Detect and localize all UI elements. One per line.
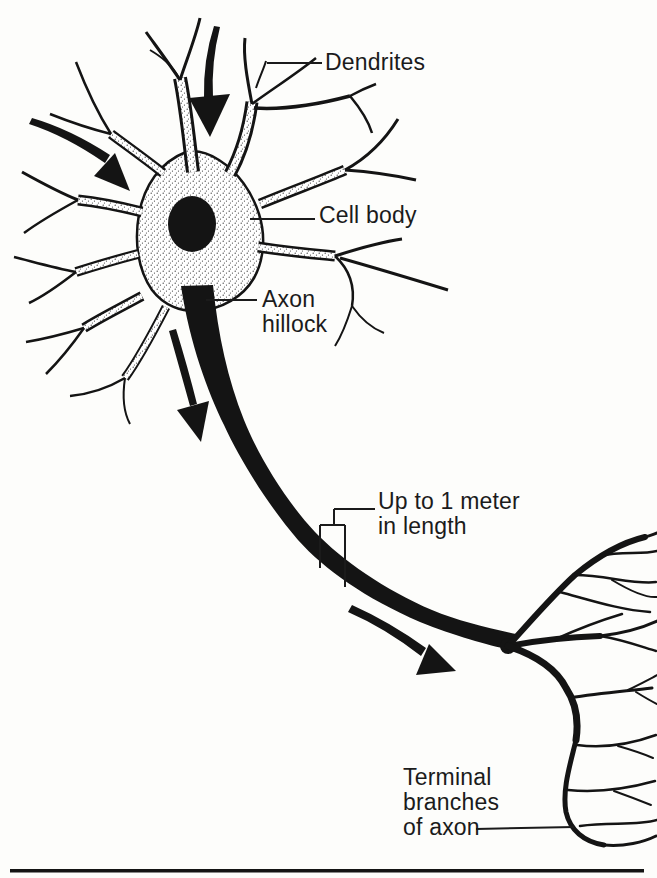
- arrow-left-into-cell-icon: [29, 118, 130, 191]
- terminal-branches-group: [500, 533, 657, 845]
- label-axon-length-line2: in length: [378, 514, 520, 539]
- dendrite: [260, 119, 416, 204]
- axon-path: [181, 285, 516, 650]
- label-dendrites: Dendrites: [325, 50, 425, 75]
- label-terminal-branches: Terminal branches of axon: [403, 765, 499, 840]
- label-cell-body-line: Cell body: [319, 203, 417, 228]
- nucleus: [168, 196, 216, 252]
- label-axon-hillock-line2: hillock: [262, 312, 327, 337]
- label-terminal-line2: branches: [403, 790, 499, 815]
- dendrite: [14, 254, 138, 303]
- neuron-illustration: [0, 0, 657, 878]
- label-terminal-line1: Terminal: [403, 765, 499, 790]
- dendrite: [26, 296, 142, 374]
- label-dendrites-line: Dendrites: [325, 50, 425, 75]
- arrow-down-into-cell-icon: [189, 26, 230, 137]
- leader-lines-group: [206, 63, 574, 829]
- bottom-rule: [10, 869, 644, 873]
- label-axon-length-line1: Up to 1 meter: [378, 489, 520, 514]
- label-axon-length: Up to 1 meter in length: [378, 489, 520, 539]
- dendrite: [146, 18, 200, 172]
- label-axon-hillock: Axon hillock: [262, 287, 327, 337]
- label-terminal-line3: of axon: [403, 815, 499, 840]
- neuron-diagram: Dendrites Cell body Axon hillock Up to 1…: [0, 0, 657, 878]
- label-cell-body: Cell body: [319, 203, 417, 228]
- label-axon-hillock-line1: Axon: [262, 287, 327, 312]
